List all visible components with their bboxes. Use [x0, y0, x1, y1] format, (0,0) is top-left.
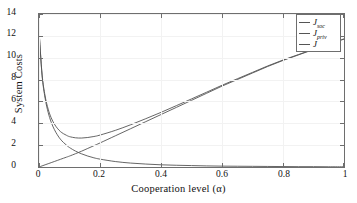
gridline-vertical [222, 14, 223, 167]
axis-tick-y [39, 167, 43, 168]
y-axis-title: System Costs [13, 14, 24, 154]
gridline-horizontal [39, 101, 344, 102]
legend-item-j: J [299, 39, 340, 50]
legend: Jsoc Jpriv J [296, 14, 341, 52]
axis-tick-y [39, 36, 43, 37]
axis-tick-y [39, 123, 43, 124]
gridline-vertical [161, 14, 162, 167]
axis-tick-y [340, 80, 344, 81]
axis-tick-x [343, 163, 344, 167]
gridline-vertical [344, 14, 345, 167]
gridline-horizontal [39, 80, 344, 81]
legend-swatch-j-priv [299, 33, 310, 34]
axis-tick-x [39, 14, 40, 18]
x-tick-label-0_8: 0.8 [269, 170, 299, 180]
x-axis-title: Cooperation level (α) [0, 183, 357, 194]
x-tick-label-1: 1 [330, 170, 357, 180]
axis-tick-x [100, 163, 101, 167]
axis-tick-x [39, 163, 40, 167]
x-tick-label-0_6: 0.6 [207, 170, 237, 180]
axis-tick-y [340, 123, 344, 124]
legend-item-j-soc: Jsoc [299, 17, 340, 28]
gridline-vertical [100, 14, 101, 167]
x-tick-label-0_4: 0.4 [146, 170, 176, 180]
legend-swatch-j [299, 44, 310, 45]
axis-tick-x [283, 163, 284, 167]
axis-tick-x [100, 14, 101, 18]
axis-tick-x [222, 163, 223, 167]
gridline-horizontal [39, 123, 344, 124]
axis-tick-x [343, 14, 344, 18]
legend-item-j-priv: Jpriv [299, 28, 340, 39]
x-tick-label-0: 0 [23, 170, 53, 180]
axis-tick-x [161, 14, 162, 18]
axis-tick-y [39, 58, 43, 59]
axis-tick-y [340, 101, 344, 102]
x-tick-label-0_2: 0.2 [84, 170, 114, 180]
gridline-vertical [39, 14, 40, 167]
axis-tick-y [340, 58, 344, 59]
legend-swatch-j-soc [299, 22, 310, 23]
axis-tick-x [161, 163, 162, 167]
axis-tick-x [283, 14, 284, 18]
axis-tick-y [39, 101, 43, 102]
axis-tick-y [340, 167, 344, 168]
gridline-vertical [283, 14, 284, 167]
legend-label-j: J [313, 39, 317, 51]
gridline-horizontal [39, 145, 344, 146]
y-tick-label-0: 0 [0, 161, 16, 171]
gridline-horizontal [39, 167, 344, 168]
axis-tick-y [39, 145, 43, 146]
axis-tick-y [39, 80, 43, 81]
chart-figure: 0 2 4 6 8 10 12 14 0 0.2 0.4 0.6 0.8 1 C… [0, 0, 357, 203]
gridline-horizontal [39, 58, 344, 59]
axis-tick-x [222, 14, 223, 18]
axis-tick-y [340, 145, 344, 146]
